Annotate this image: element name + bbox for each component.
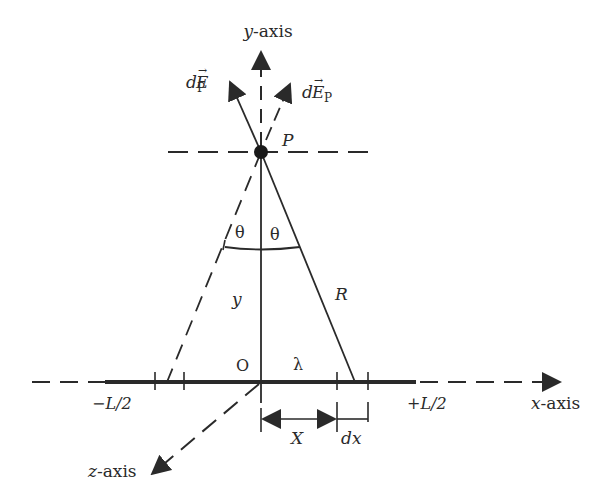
point-P xyxy=(254,145,268,159)
field-label-right-vec: → xyxy=(314,74,323,87)
theta-arc-tick-left xyxy=(223,240,225,250)
distance-R-line xyxy=(261,152,355,382)
distance-R-label: R xyxy=(334,284,348,304)
mirror-dashed-line xyxy=(167,152,261,382)
theta-left-label: θ xyxy=(235,223,245,242)
charge-density-label: λ xyxy=(293,355,303,374)
element-dx-label: dx xyxy=(341,428,362,448)
left-end-label: −L/2 xyxy=(92,394,132,413)
field-label-right-sub: P xyxy=(324,91,332,105)
y-axis-label: y-axis xyxy=(242,21,292,41)
position-X-label: X xyxy=(289,428,304,448)
theta-arc xyxy=(225,247,300,250)
theta-right-label: θ xyxy=(270,225,280,244)
field-vector-left xyxy=(230,82,261,152)
field-label-left-vec: → xyxy=(198,64,207,77)
z-axis-label: z-axis xyxy=(87,461,137,481)
distance-y-label: y xyxy=(231,289,242,309)
line-charge-diagram: y-axis dP E → d E → P P θ θ y R O λ −L/2… xyxy=(0,0,598,501)
right-end-label: +L/2 xyxy=(407,394,447,413)
point-P-label: P xyxy=(281,130,294,150)
x-axis-label: x-axis xyxy=(531,393,580,413)
z-axis-dashed xyxy=(152,384,259,474)
origin-label: O xyxy=(236,356,249,375)
